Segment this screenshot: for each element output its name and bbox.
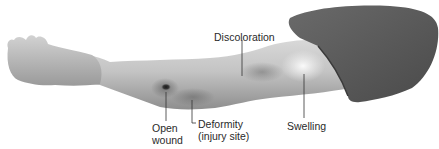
swelling-area bbox=[281, 50, 325, 82]
open-wound-label: Open wound bbox=[152, 122, 183, 146]
swelling-label: Swelling bbox=[287, 120, 326, 132]
discoloration-label: Discoloration bbox=[214, 31, 275, 43]
hand-shape bbox=[7, 35, 101, 85]
deformity-label: Deformity (injury site) bbox=[198, 118, 249, 142]
injury-arm-diagram: Discoloration Open wound Deformity (inju… bbox=[0, 0, 439, 149]
discoloration-area bbox=[240, 62, 284, 82]
